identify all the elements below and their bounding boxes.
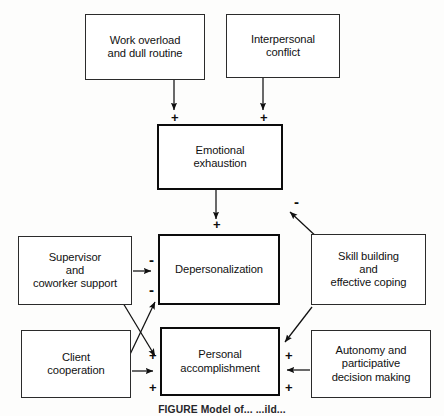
node-emotional-exhaustion-label: Emotional exhaustion [190,144,249,170]
node-personal-accomplishment: Personal accomplishment [160,327,280,396]
node-interpersonal-conflict-label: Interpersonal conflict [248,33,318,59]
sign-supervisor-support-to-depersonalization: - [149,253,154,266]
sign-emotional-exhaustion-to-depersonalization: + [213,218,221,231]
figure-caption: FIGURE Model of... ...ild... [0,404,444,416]
sign-interpersonal-conflict-to-emotional-exhaustion: + [260,111,268,124]
node-work-overload: Work overload and dull routine [85,14,205,80]
node-depersonalization: Depersonalization [158,234,280,305]
sign-client-cooperation-to-depersonalization: - [149,283,154,296]
sign-supervisor-support-to-personal-accomplishment: + [149,349,157,362]
node-client-cooperation-label: Client cooperation [44,351,107,377]
sign-client-cooperation-to-personal-accomplishment: + [149,381,157,394]
node-skill-building: Skill building and effective coping [311,234,426,305]
node-personal-accomplishment-label: Personal accomplishment [177,348,262,374]
edge-skill-building-to-personal-accomplishment [285,307,312,342]
node-client-cooperation: Client cooperation [21,330,131,398]
node-interpersonal-conflict: Interpersonal conflict [226,14,340,78]
node-skill-building-label: Skill building and effective coping [328,250,410,290]
node-autonomy: Autonomy and participative decision maki… [311,330,431,398]
sign-work-overload-to-emotional-exhaustion: + [171,111,179,124]
burnout-model-figure: Work overload and dull routine Interpers… [0,0,444,416]
node-depersonalization-label: Depersonalization [172,263,266,276]
node-emotional-exhaustion: Emotional exhaustion [157,124,283,190]
sign-skill-building-to-emotional-exhaustion: - [294,195,299,208]
sign-skill-building-to-personal-accomplishment: + [285,349,293,362]
node-work-overload-label: Work overload and dull routine [105,34,186,60]
node-supervisor-support: Supervisor and coworker support [18,236,132,305]
node-autonomy-label: Autonomy and participative decision maki… [329,344,414,384]
sign-autonomy-to-personal-accomplishment: + [285,381,293,394]
node-supervisor-support-label: Supervisor and coworker support [30,251,120,291]
